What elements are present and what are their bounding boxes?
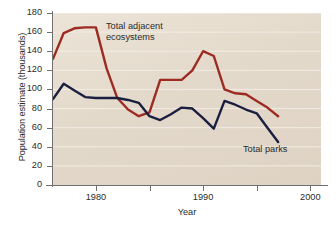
series-line-total-adjacent-ecosystems — [53, 27, 278, 116]
y-tick-label: 40 — [12, 141, 42, 151]
y-tick-label: 160 — [12, 26, 42, 36]
y-tick-mark — [47, 89, 52, 90]
x-tick-mark — [257, 186, 258, 191]
y-tick-mark — [47, 109, 52, 110]
y-tick-label: 100 — [12, 83, 42, 93]
chart-figure: Population estimate (thousands) 02040608… — [0, 0, 336, 229]
y-tick-label: 60 — [12, 122, 42, 132]
y-tick-mark — [47, 51, 52, 52]
plot-svg — [53, 13, 321, 185]
y-tick-label: 80 — [12, 103, 42, 113]
y-tick-mark — [47, 185, 52, 186]
x-tick-mark — [96, 186, 97, 191]
gridlines — [53, 13, 321, 166]
x-tick-label: 1990 — [183, 192, 223, 202]
series-line-total-parks — [53, 84, 278, 142]
y-tick-label: 180 — [12, 7, 42, 17]
y-tick-mark — [47, 166, 52, 167]
x-tick-mark — [150, 186, 151, 191]
y-axis-title: Population estimate (thousands) — [17, 12, 27, 182]
x-axis-line — [46, 185, 328, 186]
x-axis-title: Year — [53, 207, 321, 217]
y-tick-mark — [47, 70, 52, 71]
y-tick-mark — [47, 128, 52, 129]
series-label-total-parks: Total parks — [243, 144, 287, 155]
x-tick-label: 1980 — [76, 192, 116, 202]
x-tick-mark — [310, 186, 311, 191]
y-tick-mark — [47, 13, 52, 14]
x-tick-label: 2000 — [290, 192, 330, 202]
series-label-total-adjacent-ecosystems: Total adjacent ecosystems — [106, 21, 163, 43]
y-axis-line — [52, 11, 53, 187]
y-tick-label: 0 — [12, 179, 42, 189]
y-tick-label: 20 — [12, 160, 42, 170]
y-tick-mark — [47, 147, 52, 148]
x-tick-mark — [203, 186, 204, 191]
plot-area — [53, 13, 321, 185]
y-tick-mark — [47, 32, 52, 33]
y-tick-label: 120 — [12, 64, 42, 74]
y-tick-label: 140 — [12, 45, 42, 55]
series-lines — [53, 27, 278, 142]
